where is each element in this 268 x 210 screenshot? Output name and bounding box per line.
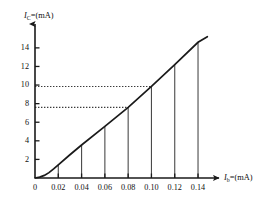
chart-plot-area: 2468101214 00.020.040.060.080.100.120.14…	[0, 0, 268, 210]
series-curve-group	[35, 37, 207, 178]
y-tick-label-2: 2	[25, 155, 29, 164]
y-tick-label-8: 8	[25, 99, 29, 108]
x-axis-title: Ib=(mA)	[223, 173, 253, 183]
y-tick-label-10: 10	[21, 80, 29, 89]
y-axis-title: IC=(mA)	[23, 11, 54, 21]
x-tick-label-0.12: 0.12	[168, 183, 182, 192]
y-tick-label-4: 4	[25, 136, 29, 145]
x-tick-label-0.02: 0.02	[51, 183, 65, 192]
y-tick-label-14: 14	[21, 43, 29, 52]
axis-ticks-group	[35, 48, 198, 178]
series-line-transfer-characteristic	[35, 37, 207, 178]
axes-group	[35, 24, 219, 178]
guide-lines-group	[35, 86, 151, 107]
y-tick-label-6: 6	[25, 118, 29, 127]
x-tick-label-0: 0	[33, 183, 37, 192]
y-tick-labels-group: 2468101214	[21, 43, 29, 164]
x-tick-label-0.10: 0.10	[144, 183, 158, 192]
chart-figure: 2468101214 00.020.040.060.080.100.120.14…	[0, 0, 268, 210]
x-tick-label-0.14: 0.14	[191, 183, 205, 192]
x-tick-labels-group: 00.020.040.060.080.100.120.14	[33, 183, 205, 192]
x-tick-label-0.08: 0.08	[121, 183, 135, 192]
x-tick-label-0.06: 0.06	[98, 183, 112, 192]
x-tick-label-0.04: 0.04	[74, 183, 88, 192]
y-tick-label-12: 12	[21, 62, 29, 71]
